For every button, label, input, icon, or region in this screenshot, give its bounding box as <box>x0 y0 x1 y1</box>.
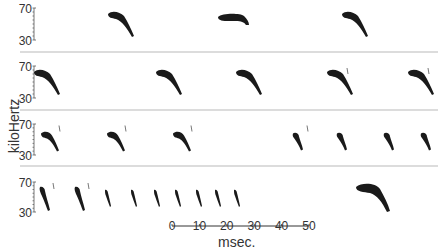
x-tick-20: 20 <box>220 219 233 233</box>
y-tick-70: 70 <box>19 60 33 74</box>
panel-4-y-axis: 7030 <box>19 176 36 220</box>
x-tick-40: 40 <box>275 219 288 233</box>
harmonic-trace <box>428 68 429 74</box>
call-fm-short <box>293 126 308 151</box>
panel-1-y-axis: 7030 <box>19 2 36 48</box>
y-tick-30: 30 <box>19 206 33 220</box>
call-fm-steep <box>40 183 54 211</box>
call-fm-long <box>108 12 134 37</box>
call-fm-mid <box>41 126 60 152</box>
call-fm-long <box>34 70 60 95</box>
x-tick-50: 50 <box>302 219 315 233</box>
call-fm-long <box>236 70 262 95</box>
x-axis-label: msec. <box>218 234 255 250</box>
call-fm-steep-thin <box>154 190 160 207</box>
call-fm-short <box>337 133 347 151</box>
y-tick-70: 70 <box>19 2 33 16</box>
call-fm-short <box>421 133 431 151</box>
call-fm-mid <box>173 126 192 152</box>
call-fm-long <box>342 12 368 37</box>
harmonic-trace <box>59 126 60 132</box>
call-fm-steep-thin <box>175 190 181 207</box>
spectrogram-figure: 7030703070307030 <box>0 0 438 251</box>
y-tick-70: 70 <box>19 176 33 190</box>
call-fm-steep <box>75 183 89 211</box>
panel-3 <box>41 126 431 152</box>
call-fm-steep-thin <box>196 190 202 207</box>
echolocation-calls <box>34 12 434 212</box>
x-tick-10: 10 <box>193 219 206 233</box>
harmonic-trace <box>125 126 126 132</box>
x-tick-30: 30 <box>248 219 261 233</box>
harmonic-trace <box>88 183 89 189</box>
y-axis-label: kiloHertz <box>6 96 22 156</box>
harmonic-trace <box>191 126 192 132</box>
panel-2 <box>34 68 434 95</box>
call-cf-flat <box>218 14 249 25</box>
harmonic-trace <box>347 68 348 74</box>
x-tick-0: 0 <box>169 219 176 233</box>
harmonic-trace <box>53 183 54 189</box>
harmonic-trace <box>307 126 308 132</box>
call-fm-steep-thin <box>105 190 111 207</box>
call-fm-mid <box>107 126 126 152</box>
call-fm-long-large <box>356 184 390 212</box>
call-fm-steep-thin <box>234 190 240 207</box>
panel-4 <box>40 183 390 212</box>
panel-separators <box>20 52 438 166</box>
call-fm-long <box>327 68 353 95</box>
call-fm-long <box>156 70 182 95</box>
panel-1 <box>108 12 368 37</box>
y-tick-30: 30 <box>19 34 33 48</box>
call-fm-long <box>408 68 434 95</box>
call-fm-short <box>384 133 394 151</box>
call-fm-steep-thin <box>215 190 221 207</box>
call-fm-steep-thin <box>131 190 137 207</box>
